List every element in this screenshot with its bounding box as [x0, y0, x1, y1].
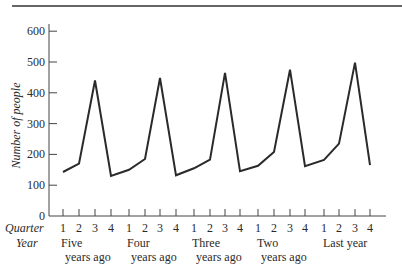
quarter-tick-label: 1	[126, 221, 132, 235]
quarter-tick-label: 4	[237, 221, 243, 235]
y-ticks: 0100200300400500600	[27, 24, 57, 223]
quarter-tick-label: 2	[336, 221, 342, 235]
quarter-tick-label: 1	[321, 221, 327, 235]
quarter-tick-label: 3	[92, 221, 98, 235]
y-tick-label: 300	[27, 117, 45, 131]
year-group-label: Fiveyears ago	[61, 236, 111, 264]
quarter-tick-label: 4	[302, 221, 308, 235]
y-tick-label: 500	[27, 55, 45, 69]
quarter-tick-label: 1	[255, 221, 261, 235]
year-group-label: Last year	[323, 236, 367, 250]
year-group-label: Twoyears ago	[257, 236, 307, 264]
chart-canvas: 0100200300400500600 12341234123412341234	[0, 0, 402, 264]
quarter-tick-label: 2	[207, 221, 213, 235]
data-line	[63, 63, 370, 176]
quarter-tick-label: 4	[108, 221, 114, 235]
year-group-label: Threeyears ago	[192, 236, 242, 264]
quarter-tick-label: 4	[173, 221, 179, 235]
quarter-row-label: Quarter	[5, 221, 44, 235]
quarter-tick-label: 1	[191, 221, 197, 235]
quarter-tick-label: 2	[76, 221, 82, 235]
x-ticks: 12341234123412341234	[60, 209, 373, 235]
year-group-label: Fouryears ago	[127, 236, 177, 264]
y-tick-label: 400	[27, 86, 45, 100]
quarter-tick-label: 4	[367, 221, 373, 235]
year-row-label: Year	[16, 236, 38, 250]
y-tick-label: 200	[27, 147, 45, 161]
quarter-tick-label: 3	[222, 221, 228, 235]
quarter-tick-label: 3	[157, 221, 163, 235]
quarter-tick-label: 2	[142, 221, 148, 235]
y-tick-label: 100	[27, 178, 45, 192]
quarter-tick-label: 3	[287, 221, 293, 235]
quarter-tick-label: 3	[352, 221, 358, 235]
y-axis-label: Number of people	[9, 76, 24, 176]
quarter-tick-label: 2	[271, 221, 277, 235]
quarter-tick-label: 1	[60, 221, 66, 235]
y-tick-label: 600	[27, 24, 45, 38]
